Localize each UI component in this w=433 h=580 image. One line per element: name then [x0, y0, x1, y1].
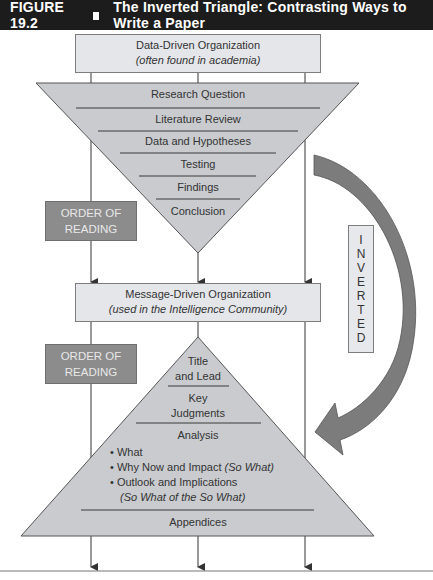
order-of-reading-line1: ORDER OF [46, 205, 136, 221]
level-literature-review: Literature Review [98, 113, 298, 125]
order-of-reading-line2: READING [46, 364, 136, 380]
level-findings: Findings [98, 181, 298, 193]
inverted-letter: E [357, 317, 365, 331]
message-driven-title: Message-Driven Organization [76, 287, 320, 302]
bullet-note: (So What) [225, 461, 275, 473]
inverted-letter: V [357, 261, 365, 275]
order-of-reading-box-bottom: ORDER OF READING [45, 344, 137, 384]
inverted-letter: R [357, 289, 366, 303]
message-driven-box: Message-Driven Organization (used in the… [75, 283, 321, 322]
level-lead-text: and Lead [158, 369, 238, 384]
inverted-letter: T [357, 303, 364, 317]
level-research-question: Research Question [98, 88, 298, 100]
analysis-bullet-outlook: • Outlook and Implications [110, 475, 237, 489]
level-title-and-lead: Title and Lead [158, 354, 238, 384]
message-driven-subtitle: (used in the Intelligence Community) [76, 302, 320, 317]
inverted-letter: D [357, 331, 366, 345]
bullet-text: What [117, 446, 143, 458]
bullet-text: Outlook and Implications [117, 476, 237, 488]
analysis-bullet-outlook-note: (So What of the So What) [120, 490, 245, 504]
level-appendices: Appendices [148, 516, 248, 528]
order-of-reading-line2: READING [46, 221, 136, 237]
analysis-bullet-what: • What [110, 445, 143, 459]
level-key-text: Key [148, 391, 248, 406]
data-driven-box: Data-Driven Organization (often found in… [75, 34, 321, 73]
level-title-text: Title [158, 354, 238, 369]
level-key-judgments: Key Judgments [148, 391, 248, 421]
level-judgments-text: Judgments [148, 406, 248, 421]
inverted-letter: I [359, 233, 362, 247]
data-driven-subtitle: (often found in academia) [76, 53, 320, 68]
level-analysis: Analysis [148, 429, 248, 441]
inverted-letter: N [357, 247, 366, 261]
inverted-letter: E [357, 275, 365, 289]
data-driven-title: Data-Driven Organization [76, 38, 320, 53]
analysis-bullet-why-now: • Why Now and Impact (So What) [110, 460, 274, 474]
order-of-reading-box-top: ORDER OF READING [45, 201, 137, 241]
bullet-text: Why Now and Impact [117, 461, 225, 473]
order-of-reading-line1: ORDER OF [46, 348, 136, 364]
level-data-hypotheses: Data and Hypotheses [98, 135, 298, 147]
level-testing: Testing [98, 158, 298, 170]
inverted-label: I N V E R T E D [348, 225, 374, 353]
